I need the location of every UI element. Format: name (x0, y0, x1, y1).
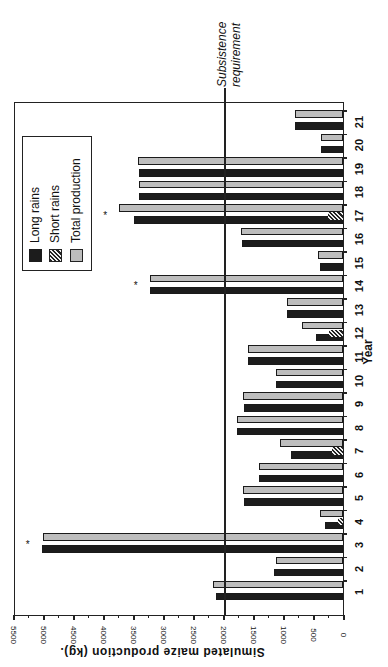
bar-long-rains-year-8 (237, 428, 343, 436)
bar-long-rains-year-17 (134, 216, 343, 224)
bar-short-rains-year-17 (328, 212, 343, 220)
year-label: 20 (353, 135, 365, 155)
year-tick (343, 275, 347, 277)
year-tick (343, 228, 347, 230)
bar-total-production-year-3 (43, 533, 343, 541)
bar-long-rains-year-19 (139, 169, 343, 177)
value-minor-tick (118, 615, 119, 618)
value-label: 500 (308, 620, 318, 650)
year-tick (343, 134, 347, 136)
value-minor-tick (178, 615, 179, 618)
bar-long-rains-year-10 (276, 381, 343, 389)
year-tick (343, 392, 347, 394)
year-tick (343, 157, 347, 159)
maize-production-chart: *** 123456789101112131415161718192021050… (0, 0, 388, 667)
bar-total-production-year-6 (259, 463, 343, 471)
year-label: 17 (353, 206, 365, 226)
annotation-asterisk: * (134, 281, 138, 291)
bar-short-rains-year-7 (332, 447, 343, 455)
year-label: 15 (353, 253, 365, 273)
annotation-asterisk: * (26, 540, 30, 550)
year-tick (343, 298, 347, 300)
year-tick (343, 251, 347, 253)
bar-total-production-year-7 (280, 439, 343, 447)
bar-long-rains-year-14 (150, 287, 343, 295)
legend-label-short-rains: Short rains (48, 185, 62, 243)
year-tick (343, 110, 347, 112)
value-minor-tick (148, 615, 149, 618)
year-label: 14 (353, 276, 365, 296)
legend-swatch-long-rains (29, 249, 42, 262)
year-tick (343, 345, 347, 347)
year-tick (343, 322, 347, 324)
year-label: 6 (353, 465, 365, 485)
year-label: 18 (353, 182, 365, 202)
value-minor-tick (238, 615, 239, 618)
year-label: 3 (353, 535, 365, 555)
value-minor-tick (328, 615, 329, 618)
x-axis-title: Year (361, 339, 375, 364)
value-label: 0 (338, 620, 348, 650)
subsistence-label: Subsistence requirement (215, 22, 243, 87)
year-label: 1 (353, 582, 365, 602)
year-label: 21 (353, 112, 365, 132)
bar-short-rains-year-4 (338, 518, 343, 526)
bar-total-production-year-13 (287, 298, 343, 306)
bar-long-rains-year-1 (216, 593, 343, 601)
bar-total-production-year-21 (295, 110, 343, 118)
value-label: 1000 (278, 620, 288, 650)
legend: Long rains Short rains Total production (22, 136, 92, 271)
bar-total-production-year-11 (248, 345, 343, 353)
annotation-asterisk: * (103, 211, 107, 221)
subsistence-line (224, 88, 226, 616)
bar-short-rains-year-12 (329, 330, 343, 338)
year-tick (343, 369, 347, 371)
year-tick (343, 204, 347, 206)
bar-long-rains-year-5 (244, 498, 343, 506)
bar-total-production-year-16 (241, 228, 343, 236)
bar-total-production-year-4 (320, 510, 343, 518)
bar-long-rains-year-18 (139, 193, 343, 201)
bar-long-rains-year-16 (242, 240, 343, 248)
bar-long-rains-year-20 (321, 146, 343, 154)
year-label: 9 (353, 394, 365, 414)
bar-total-production-year-5 (243, 486, 343, 494)
bar-total-production-year-20 (321, 134, 343, 142)
legend-swatch-short-rains (49, 249, 62, 262)
year-tick (343, 463, 347, 465)
bar-long-rains-year-15 (320, 263, 343, 271)
year-tick (343, 557, 347, 559)
legend-swatch-total-production (70, 249, 83, 262)
value-minor-tick (268, 615, 269, 618)
year-label: 10 (353, 371, 365, 391)
bar-total-production-year-1 (213, 581, 343, 589)
year-label: 13 (353, 300, 365, 320)
value-minor-tick (88, 615, 89, 618)
bar-long-rains-year-21 (295, 122, 343, 130)
subsistence-label-line1: Subsistence (215, 22, 229, 87)
year-label: 7 (353, 441, 365, 461)
subsistence-label-line2: requirement (229, 22, 243, 87)
year-label: 8 (353, 418, 365, 438)
year-label: 16 (353, 229, 365, 249)
bar-long-rains-year-3 (42, 545, 343, 553)
bar-total-production-year-12 (302, 322, 343, 330)
bar-long-rains-year-11 (248, 357, 343, 365)
bar-total-production-year-2 (276, 557, 343, 565)
bar-total-production-year-18 (139, 181, 343, 189)
year-label: 2 (353, 559, 365, 579)
bar-total-production-year-14 (150, 275, 343, 283)
year-tick (343, 439, 347, 441)
year-tick (343, 486, 347, 488)
value-minor-tick (208, 615, 209, 618)
bar-total-production-year-19 (138, 157, 343, 165)
legend-label-total-production: Total production (69, 158, 83, 243)
value-minor-tick (298, 615, 299, 618)
year-tick (343, 416, 347, 418)
year-label: 4 (353, 512, 365, 532)
legend-label-long-rains: Long rains (28, 187, 42, 243)
bar-long-rains-year-6 (259, 475, 343, 483)
year-tick (343, 181, 347, 183)
value-minor-tick (28, 615, 29, 618)
bar-total-production-year-8 (237, 416, 343, 424)
